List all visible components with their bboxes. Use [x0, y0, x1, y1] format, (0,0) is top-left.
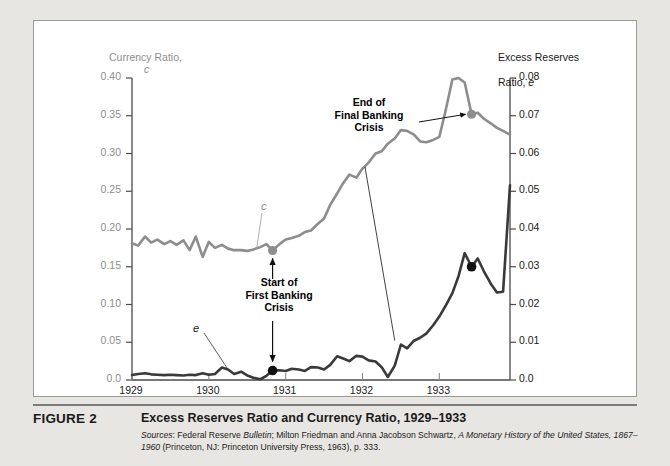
currency-marker-end-crisis [467, 110, 476, 119]
left-axis-title-line1: Currency Ratio, [109, 51, 182, 63]
y-tick-left-0_25: 0.25 [81, 184, 121, 195]
sources-label: Sources [141, 430, 173, 440]
x-tick-1930: 1930 [183, 385, 233, 396]
y-tick-right-0_07: 0.07 [519, 109, 563, 120]
excess-marker-end-crisis [467, 262, 477, 272]
y-tick-right-0_05: 0.05 [519, 184, 563, 195]
y-tick-left-0_40: 0.40 [81, 71, 121, 82]
y-tick-right-0_01: 0.01 [519, 335, 563, 346]
x-tick-1933: 1933 [413, 385, 463, 396]
x-tick-1931: 1931 [260, 385, 310, 396]
left-axis-title: Currency Ratio, c [109, 38, 229, 88]
figure-title: Excess Reserves Ratio and Currency Ratio… [141, 411, 466, 425]
y-tick-left-0_0: 0.0 [81, 373, 121, 384]
sources-bulletin: Bulletin [243, 430, 271, 440]
y-tick-left-0_20: 0.20 [81, 222, 121, 233]
currency-marker-start-crisis [268, 246, 277, 255]
figure-root: Currency Ratio, c Excess Reserves Ratio,… [0, 0, 670, 466]
annotation-leaders [273, 114, 466, 361]
series-label-currency-ratio: c [261, 200, 267, 212]
sources-text-1: : Federal Reserve [173, 430, 244, 440]
y-tick-right-0_04: 0.04 [519, 222, 563, 233]
left-axis-symbol: c [109, 63, 229, 76]
annotation-start-of-first-banking-crisis: Start of First Banking Crisis [229, 276, 329, 314]
right-axis-title-line1: Excess Reserves [498, 51, 579, 63]
figure-sources: Sources: Federal Reserve Bulletin; Milto… [141, 430, 641, 453]
caption-rule [33, 404, 637, 406]
series-label-excess-reserves: e [193, 322, 199, 334]
sources-text-2: ; Milton Friedman and Anna Jacobson Schw… [271, 430, 458, 440]
sources-book-title: A Monetary History of the United States, [458, 430, 611, 440]
y-tick-right-0_02: 0.02 [519, 298, 563, 309]
sources-text-3: (Princeton, NJ: Princeton University Pre… [160, 442, 380, 452]
x-tick-1929: 1929 [106, 385, 156, 396]
y-tick-right-0_0: 0.0 [519, 373, 563, 384]
y-tick-left-0_35: 0.35 [81, 109, 121, 120]
annotation-end-of-final-banking-crisis: End of Final Banking Crisis [321, 96, 417, 134]
excess-marker-start-crisis [268, 366, 278, 376]
y-tick-right-0_08: 0.08 [519, 71, 563, 82]
y-tick-left-0_10: 0.10 [81, 298, 121, 309]
y-tick-left-0_30: 0.30 [81, 147, 121, 158]
y-tick-right-0_06: 0.06 [519, 147, 563, 158]
y-tick-left-0_15: 0.15 [81, 260, 121, 271]
x-tick-1932: 1932 [336, 385, 386, 396]
y-tick-right-0_03: 0.03 [519, 260, 563, 271]
figure-number: FIGURE 2 [33, 411, 97, 426]
y-tick-left-0_05: 0.05 [81, 335, 121, 346]
